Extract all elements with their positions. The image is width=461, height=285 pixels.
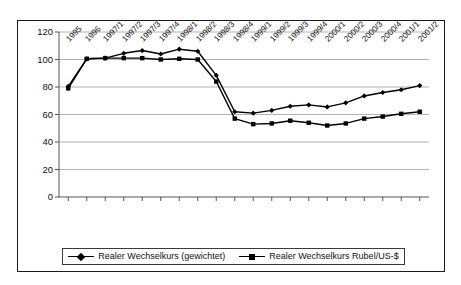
data-point-diamond	[306, 102, 311, 107]
data-point-square	[233, 116, 237, 120]
y-axis-label: 60	[42, 110, 53, 120]
data-point-square	[399, 112, 403, 116]
chart-legend: Realer Wechselkurs (gewichtet) Realer We…	[62, 248, 405, 265]
data-point-square	[325, 123, 329, 127]
data-point-square	[140, 56, 144, 60]
data-point-square	[362, 116, 366, 120]
data-point-square	[66, 86, 70, 90]
data-point-square	[418, 110, 422, 114]
y-axis-label: 40	[42, 137, 53, 147]
data-point-diamond	[251, 111, 256, 116]
data-point-diamond	[288, 104, 293, 109]
data-point-diamond	[325, 104, 330, 109]
data-point-square	[85, 57, 89, 61]
square-marker-icon	[239, 252, 265, 262]
data-point-diamond	[380, 90, 385, 95]
data-point-diamond	[399, 87, 404, 92]
data-point-square	[196, 57, 200, 61]
legend-entry-weighted: Realer Wechselkurs (gewichtet)	[68, 252, 225, 262]
data-point-square	[270, 121, 274, 125]
data-point-diamond	[158, 51, 163, 56]
legend-entry-rubel-usd: Realer Wechselkurs Rubel/US-$	[239, 252, 398, 262]
data-point-diamond	[140, 48, 145, 53]
data-point-square	[251, 122, 255, 126]
data-point-diamond	[177, 47, 182, 52]
plot-area: 120100806040200 199519961997/11997/21997…	[59, 32, 429, 197]
y-axis-label: 80	[42, 82, 53, 92]
diamond-marker-icon	[68, 252, 94, 262]
data-point-square	[288, 118, 292, 122]
legend-label-rubel-usd: Realer Wechselkurs Rubel/US-$	[269, 252, 398, 261]
series-line-2	[68, 58, 420, 125]
data-point-square	[159, 57, 163, 61]
chart-frame: 120100806040200 199519961997/11997/21997…	[17, 20, 445, 272]
data-point-diamond	[121, 51, 126, 56]
data-point-diamond	[362, 93, 367, 98]
data-point-square	[103, 56, 107, 60]
data-point-square	[177, 57, 181, 61]
data-point-square	[344, 121, 348, 125]
data-point-square	[381, 114, 385, 118]
y-axis-label: 120	[37, 27, 53, 37]
data-point-diamond	[417, 83, 422, 88]
data-point-square	[122, 56, 126, 60]
y-axis-label: 0	[48, 192, 53, 202]
data-point-diamond	[269, 108, 274, 113]
data-point-square	[214, 79, 218, 83]
y-axis-label: 100	[37, 55, 53, 65]
data-point-square	[307, 121, 311, 125]
chart-screenshot: 120100806040200 199519961997/11997/21997…	[0, 0, 461, 285]
y-axis-label: 20	[42, 165, 53, 175]
data-point-diamond	[343, 100, 348, 105]
legend-label-weighted: Realer Wechselkurs (gewichtet)	[98, 252, 225, 261]
chart-plot-svg	[59, 32, 429, 197]
